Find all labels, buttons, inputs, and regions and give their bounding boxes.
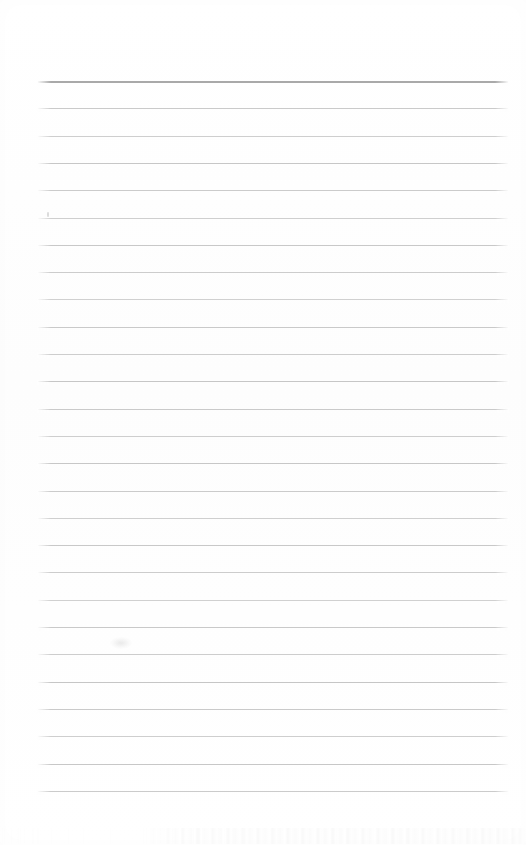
scanned-page xyxy=(0,0,526,845)
page-body-text xyxy=(38,81,508,797)
